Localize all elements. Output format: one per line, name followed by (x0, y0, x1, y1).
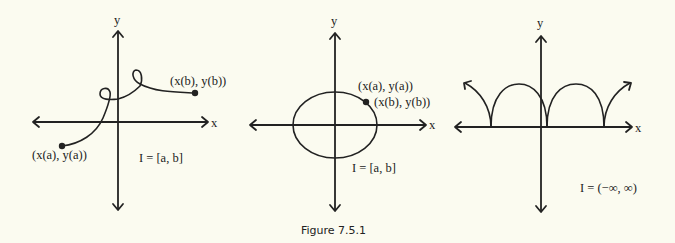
end-point-label: (x(b), y(b)) (170, 74, 226, 88)
end-point (192, 90, 198, 96)
x-axis-label: x (635, 121, 642, 135)
y-axis-label: y (331, 14, 338, 28)
x-axis-label: x (429, 118, 436, 132)
figure-caption: Figure 7.5.1 (301, 224, 366, 237)
panel-cycloid: y x I = (−∞, ∞) (455, 16, 642, 212)
panel-closed-curve: y x (x(a), y(a)) (x(b), y(b)) I = [a, b]… (250, 14, 436, 237)
start-end-point (363, 99, 369, 105)
axes (250, 33, 426, 211)
interval-label: I = (−∞, ∞) (580, 181, 637, 195)
panel-open-curve: y x (x(a), y(a)) (x(b), y(b)) I = [a, b] (32, 13, 226, 210)
y-axis-label: y (537, 16, 544, 30)
axes (33, 31, 208, 210)
x-axis-label: x (211, 116, 218, 130)
cycloid-curve (464, 81, 631, 127)
figure-7-5-1: y x (x(a), y(a)) (x(b), y(b)) I = [a, b]… (0, 0, 675, 243)
start-point-label: (x(a), y(a)) (358, 79, 413, 93)
interval-label: I = [a, b] (352, 161, 396, 175)
diagram-canvas: y x (x(a), y(a)) (x(b), y(b)) I = [a, b]… (0, 0, 675, 243)
end-point-label: (x(b), y(b)) (374, 95, 430, 109)
interval-label: I = [a, b] (139, 151, 183, 165)
start-point-label: (x(a), y(a)) (32, 148, 87, 162)
y-axis-label: y (114, 13, 121, 27)
